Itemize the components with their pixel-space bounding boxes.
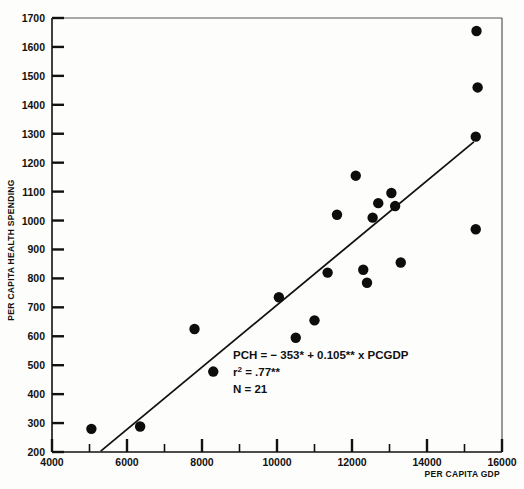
data-point [471,224,481,234]
data-point [373,198,383,208]
y-tick-label: 500 [27,359,45,371]
data-point [332,210,342,220]
y-tick-label: 1100 [22,186,45,198]
x-tick-label: 16000 [487,456,516,468]
annotation-r-squared: r2 = .77** [233,365,281,378]
data-point [386,188,396,198]
data-point [189,324,199,334]
data-point [274,292,284,302]
data-point-group [86,26,483,434]
x-tick-label: 8000 [190,456,214,468]
annotation-sample-size: N = 21 [233,383,268,395]
data-point [472,82,482,92]
y-tick-label: 700 [27,301,45,313]
y-tick-label: 800 [27,272,45,284]
data-point [471,26,481,36]
regression-annotation: PCH = − 353* + 0.105** x PCGDP r2 = .77*… [233,349,409,395]
data-point [208,366,218,376]
y-tick-label: 600 [27,330,45,342]
y-tick-label: 1000 [22,215,46,227]
y-tick-label: 1200 [22,157,46,169]
data-point [471,131,481,141]
x-axis-title: PER CAPITA GDP [424,469,500,479]
annotation-equation: PCH = − 353* + 0.105** x PCGDP [233,349,409,361]
x-axis-tick-labels: 40006000800010000120001400016000 [40,456,516,468]
data-point [86,424,96,434]
regression-line [101,142,474,451]
data-point [291,333,301,343]
chart-canvas: 2003004005006007008009001000110012001300… [0,0,524,489]
data-point [309,315,319,325]
y-tick-label: 300 [27,417,45,429]
annotation-r-stars: ** [271,366,280,378]
y-tick-label: 1600 [22,41,46,53]
annotation-r-value: = .77 [242,366,271,378]
data-point [135,421,145,431]
data-point [390,201,400,211]
data-point [351,170,361,180]
x-tick-label: 14000 [412,456,441,468]
x-axis-major-ticks [52,439,502,452]
x-tick-label: 4000 [40,456,64,468]
data-point [367,212,377,222]
x-tick-label: 6000 [115,456,139,468]
y-axis-title: PER CAPITA HEALTH SPENDING [6,179,16,320]
y-tick-label: 900 [27,243,45,255]
data-point [362,278,372,288]
data-point [358,265,368,275]
x-tick-label: 12000 [337,456,366,468]
data-point [396,257,406,267]
y-tick-label: 1700 [22,12,46,24]
plot-frame [52,18,502,452]
y-tick-label: 1400 [22,99,46,111]
x-tick-label: 10000 [262,456,291,468]
y-tick-label: 400 [27,388,45,400]
data-point [322,267,332,277]
y-axis-ticks [52,18,64,452]
y-axis-tick-labels: 2003004005006007008009001000110012001300… [22,12,46,458]
scatter-plot-figure: 2003004005006007008009001000110012001300… [0,0,524,489]
y-tick-label: 1500 [22,70,46,82]
y-tick-label: 1300 [22,128,46,140]
